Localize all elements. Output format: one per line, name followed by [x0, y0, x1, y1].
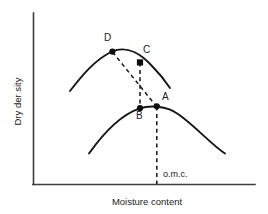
y-axis-title: Dry der sity: [12, 52, 23, 152]
data-point-c-marker: [137, 59, 143, 65]
data-point-label-a: A: [162, 92, 169, 102]
data-point-label-c: C: [143, 45, 150, 55]
upper-compaction-curve: [70, 49, 170, 91]
data-point-label-d: D: [104, 33, 111, 43]
data-point-d-marker: [109, 49, 115, 55]
compaction-curve-figure: D C A B o.m.c. Moisture content Dry der …: [0, 0, 268, 214]
d-to-a-connector: [113, 52, 157, 107]
x-axis-title: Moisture content: [0, 196, 268, 207]
optimum-moisture-content-label: o.m.c.: [163, 169, 188, 179]
plot-area: [0, 0, 268, 214]
data-point-label-b: B: [136, 111, 143, 121]
data-point-a-marker: [154, 103, 160, 109]
